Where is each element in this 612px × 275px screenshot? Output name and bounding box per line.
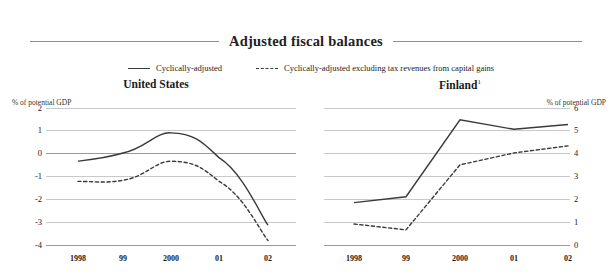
figure-title: Adjusted fiscal balances	[229, 33, 383, 50]
x-tick-us-0: 1998	[70, 254, 86, 263]
figure-adjusted-fiscal-balances: Adjusted fiscal balances Cyclically-adju…	[0, 0, 612, 275]
panel-title-finland-text: Finland	[439, 79, 477, 91]
panel-title-finland-footnote-marker: 1	[477, 78, 481, 86]
panel-finland: Finland1 % of potential GDP 6 5 4 3 2 1 …	[310, 78, 610, 274]
series-line-cyclically-adjusted-us	[78, 133, 268, 225]
panel-title-united-states: United States	[6, 78, 306, 90]
x-tick-us-4: 02	[264, 254, 272, 263]
series-line-cyclically-adjusted-excluding-fi	[354, 146, 568, 230]
x-tick-fi-3: 01	[510, 254, 518, 263]
x-tick-fi-1: 99	[402, 254, 410, 263]
x-axis-labels-fi: 1998 99 2000 01 02	[310, 254, 610, 268]
x-tick-fi-4: 02	[564, 254, 572, 263]
legend-swatch-dashed-icon	[256, 68, 278, 69]
x-tick-fi-0: 1998	[346, 254, 362, 263]
legend-item-cyclically-adjusted-excluding: Cyclically-adjusted excluding tax revenu…	[256, 63, 494, 73]
series-canvas-us	[6, 108, 306, 250]
x-tick-us-2: 2000	[163, 254, 179, 263]
panel-title-finland: Finland1	[310, 78, 610, 91]
legend-swatch-solid-icon	[128, 68, 150, 69]
legend-label-solid: Cyclically-adjusted	[156, 63, 222, 73]
legend-item-cyclically-adjusted: Cyclically-adjusted	[128, 63, 222, 73]
series-line-cyclically-adjusted-fi	[354, 120, 568, 203]
figure-title-row: Adjusted fiscal balances	[0, 30, 612, 52]
legend-label-dashed: Cyclically-adjusted excluding tax revenu…	[284, 63, 494, 73]
panel-united-states: United States % of potential GDP 2 1 0 -…	[6, 78, 306, 274]
x-tick-fi-2: 2000	[452, 254, 468, 263]
x-tick-us-1: 99	[119, 254, 127, 263]
series-line-cyclically-adjusted-excluding-us	[78, 161, 268, 240]
title-rule-right	[393, 41, 582, 42]
x-tick-us-3: 01	[215, 254, 223, 263]
series-canvas-fi	[310, 108, 610, 250]
title-rule-left	[30, 41, 219, 42]
x-axis-labels-us: 1998 99 2000 01 02	[6, 254, 306, 268]
figure-legend: Cyclically-adjusted Cyclically-adjusted …	[0, 60, 612, 76]
